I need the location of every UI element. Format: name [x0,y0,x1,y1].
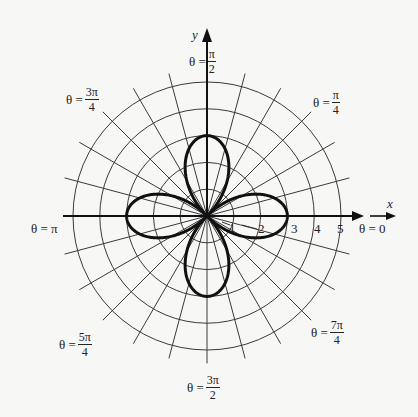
radial-line-15deg [207,178,349,216]
angle-label-3pi-over-2: θ = 3π2 [187,374,220,401]
angle-label-3pi-over-4: θ = 3π4 [66,86,99,113]
r-tick-4: 4 [314,222,321,235]
radial-line-165deg [65,178,207,216]
radial-line-255deg [169,216,207,358]
angle-label-pi-over-2: θ = π2 [189,48,216,75]
radial-line-225deg [103,216,207,320]
radial-line-45deg [207,112,311,216]
angle-label-5pi-over-4: θ = 5π4 [59,331,92,358]
y-axis-label: y [192,27,198,43]
r-tick-3: 3 [291,222,298,235]
y-axis-arrowhead [202,28,212,42]
angle-label-0: θ = 0 [359,222,386,235]
angle-label-pi-over-4: θ = π4 [313,89,340,116]
r-tick-2: 2 [258,222,265,235]
angle-label-7pi-over-4: θ = 7π4 [311,319,344,346]
radial-line-135deg [103,112,207,216]
radial-line-105deg [169,74,207,216]
radial-line-195deg [65,216,207,254]
x-axis-label: x [387,196,393,212]
angle-label-pi: θ = π [31,222,58,235]
tick-leader-2 [242,225,257,229]
x-axis-arrowhead [352,211,364,221]
radial-line-285deg [207,216,245,358]
r-tick-5: 5 [337,222,344,235]
radial-line-75deg [207,74,245,216]
theta-zero-arrowhead [386,212,396,220]
r-tick-1: 1 [229,221,236,234]
